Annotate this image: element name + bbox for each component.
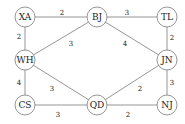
edge-weight-label: 3: [56, 111, 60, 119]
edge-weight-label: 4: [17, 79, 22, 87]
node-label: XA: [19, 12, 32, 22]
node-label: CS: [18, 100, 31, 110]
edge-weight-label: 2: [17, 33, 21, 41]
node-cs: CS: [15, 95, 35, 115]
node-label: BJ: [92, 12, 103, 22]
edge-weight-label: 3: [69, 40, 73, 48]
edge-weight-label: 3: [50, 85, 54, 93]
node-label: NJ: [161, 100, 173, 110]
edge-weight-label: 2: [138, 85, 142, 93]
edge-wh-bj: [25, 17, 97, 60]
node-label: WH: [16, 55, 33, 65]
node-qd: QD: [87, 95, 107, 115]
node-label: QD: [90, 100, 105, 110]
edge-weight-label: 2: [126, 111, 130, 119]
edge-weight-label: 2: [60, 9, 64, 17]
edge-bj-jn: [97, 17, 167, 60]
edge-weight-label: 4: [123, 40, 128, 48]
node-jn: JN: [157, 50, 177, 70]
node-label: JN: [160, 55, 173, 65]
node-nj: NJ: [157, 95, 177, 115]
node-label: TL: [161, 12, 173, 22]
node-wh: WH: [15, 50, 35, 70]
edge-weight-label: 3: [125, 9, 129, 17]
graph-nodes: XABJTLWHJNCSQDNJ: [15, 7, 177, 115]
node-bj: BJ: [87, 7, 107, 27]
node-xa: XA: [15, 7, 35, 27]
node-tl: TL: [157, 7, 177, 27]
edge-wh-qd: [25, 60, 97, 105]
graph-edges: [25, 17, 167, 105]
edge-weight-label: 2: [170, 34, 174, 42]
edge-qd-jn: [97, 60, 167, 105]
edge-weight-label: 3: [170, 79, 174, 87]
weighted-city-graph: 232342433232 XABJTLWHJNCSQDNJ: [0, 0, 185, 124]
